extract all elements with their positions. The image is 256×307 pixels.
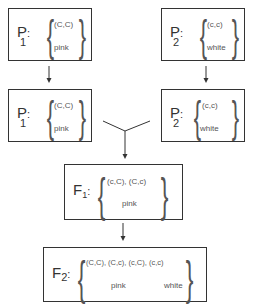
arrowhead-icon: [121, 236, 126, 241]
brace-open-icon: {: [78, 251, 86, 305]
brace-close-icon: }: [232, 11, 239, 61]
phenotype-pink: pink: [111, 281, 126, 290]
node-p2-top: P: 2 { (c,c) white }: [161, 8, 245, 61]
node-f2: F2: { (C,C), (C,c), (c,C), (c,c) pink wh…: [43, 247, 207, 302]
brace-close-icon: }: [186, 251, 194, 305]
brace-open-icon: {: [47, 11, 54, 61]
brace-open-icon: {: [200, 11, 207, 61]
brace-open-icon: {: [194, 92, 201, 142]
label-subscript: 1: [20, 36, 26, 48]
phenotype: white: [207, 43, 226, 52]
node-label: P: 2: [170, 23, 183, 40]
genotypes: (C,C), (C,c), (c,C), (c,c): [86, 258, 163, 267]
phenotype: pink: [54, 124, 69, 133]
node-p1-mid: P: 1 { (C,C) pink }: [8, 89, 92, 142]
label-subscript: 2: [173, 117, 179, 129]
phenotype-white: white: [164, 281, 183, 290]
label-main: F: [52, 264, 61, 281]
node-label: P: 1: [17, 104, 30, 121]
label-colon: :: [67, 268, 70, 280]
genotypes: (C,C): [54, 101, 73, 110]
label-subscript: 1: [20, 117, 26, 129]
label-colon: :: [27, 27, 30, 39]
node-p2-mid: P: 2 { (c,c) white }: [161, 89, 245, 142]
brace-close-icon: }: [232, 92, 239, 142]
phenotype: pink: [122, 199, 137, 208]
arrowhead-icon: [47, 78, 52, 83]
label-colon: :: [180, 27, 183, 39]
node-p1-top: P: 1 { (C,C) pink }: [8, 8, 92, 61]
brace-close-icon: }: [79, 11, 86, 61]
arrowhead-icon: [123, 154, 128, 159]
phenotype: white: [200, 124, 219, 133]
genotypes: (c,c): [207, 20, 223, 29]
genotypes: (C,C): [54, 20, 73, 29]
node-label: P: 1: [17, 23, 30, 40]
brace-open-icon: {: [98, 168, 106, 222]
edge-p2-mid-to-junction: [125, 121, 150, 131]
label-subscript: 2: [173, 36, 179, 48]
node-label: F2:: [52, 264, 70, 283]
genotypes: (c,c): [202, 101, 218, 110]
brace-open-icon: {: [47, 92, 54, 142]
arrowhead-icon: [204, 78, 209, 83]
label-colon: :: [27, 108, 30, 120]
node-f1: F1: { (c,C), (C,c) pink }: [64, 164, 183, 220]
brace-close-icon: }: [79, 92, 86, 142]
label-colon: :: [180, 108, 183, 120]
phenotype: pink: [54, 43, 69, 52]
brace-close-icon: }: [161, 168, 169, 222]
node-label: F1:: [73, 181, 90, 200]
genotypes: (c,C), (C,c): [107, 177, 146, 186]
label-colon: :: [87, 185, 90, 197]
node-label: P: 2: [170, 104, 183, 121]
label-main: F: [73, 181, 82, 198]
edge-p1-mid-to-junction: [103, 121, 125, 131]
